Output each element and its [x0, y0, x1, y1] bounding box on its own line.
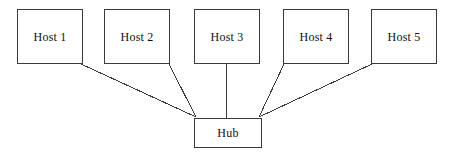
- host-node-2[interactable]: Host 2: [104, 9, 170, 64]
- host-node-3-label: Host 3: [211, 31, 244, 43]
- host-node-5[interactable]: Host 5: [371, 9, 437, 64]
- host-node-2-label: Host 2: [121, 31, 154, 43]
- hub-node-label: Hub: [217, 127, 238, 139]
- link-line-5: [259, 64, 372, 117]
- host-node-1[interactable]: Host 1: [17, 9, 83, 64]
- host-node-4[interactable]: Host 4: [283, 9, 349, 64]
- host-node-4-label: Host 4: [300, 31, 333, 43]
- hub-node[interactable]: Hub: [194, 118, 262, 148]
- link-line-4: [259, 64, 284, 117]
- host-node-3[interactable]: Host 3: [194, 9, 260, 64]
- host-node-5-label: Host 5: [388, 31, 421, 43]
- link-line-1: [81, 64, 196, 117]
- link-line-2: [169, 64, 196, 117]
- network-diagram-canvas: Host 1 Host 2 Host 3 Host 4 Host 5 Hub: [0, 0, 455, 154]
- host-node-1-label: Host 1: [34, 31, 67, 43]
